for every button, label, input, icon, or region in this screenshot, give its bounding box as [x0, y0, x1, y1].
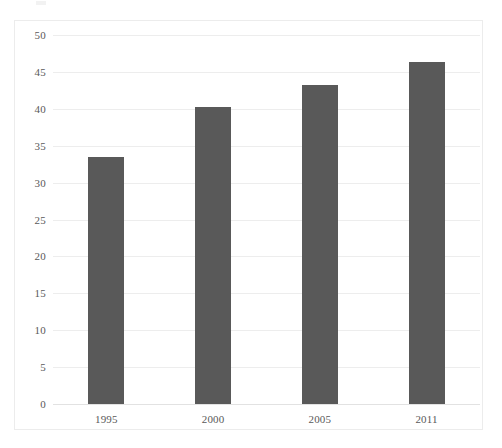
y-axis-tick-label: 10 [35, 324, 46, 336]
bar[interactable] [88, 157, 124, 404]
bars-layer [53, 35, 480, 404]
y-axis-tick-label: 45 [35, 66, 46, 78]
plot-area: 05101520253035404550 1995200020052011 [53, 35, 480, 404]
y-axis-tick-label: 0 [40, 398, 46, 410]
x-axis-tick-label: 2011 [415, 413, 437, 425]
y-axis-tick-label: 5 [40, 361, 46, 373]
scan-artifact [36, 1, 46, 5]
bar-chart: 05101520253035404550 1995200020052011 [0, 0, 502, 448]
y-axis-tick-label: 40 [35, 103, 46, 115]
x-axis-tick-label: 2005 [308, 413, 331, 425]
bar[interactable] [302, 85, 338, 404]
y-axis-tick-label: 15 [35, 287, 46, 299]
bar[interactable] [195, 107, 231, 404]
x-axis-tick-label: 2000 [202, 413, 225, 425]
x-axis-tick-label: 1995 [95, 413, 118, 425]
y-axis-tick-label: 30 [35, 177, 46, 189]
plot-frame: 05101520253035404550 1995200020052011 [14, 20, 483, 430]
y-axis-tick-label: 25 [35, 214, 46, 226]
y-axis-tick-label: 50 [35, 29, 46, 41]
y-axis-tick-label: 20 [35, 250, 46, 262]
y-axis-tick-label: 35 [35, 140, 46, 152]
gridline: 0 [53, 404, 480, 405]
bar[interactable] [409, 62, 445, 404]
